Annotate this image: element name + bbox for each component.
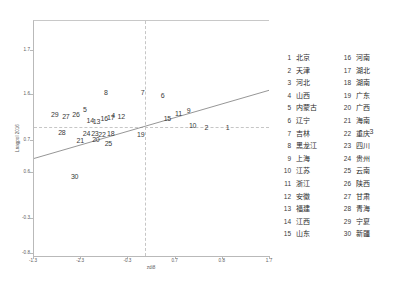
legend-entry: 26陕西 <box>338 178 390 191</box>
x-axis-line <box>33 256 269 257</box>
scatter-point-label: 7 <box>141 89 145 97</box>
legend-entry: 20广西 <box>338 102 390 115</box>
legend-entry: 4山西 <box>278 90 330 103</box>
x-tick-label: 0.7 <box>171 258 177 264</box>
province-legend: 1北京2天津3河北4山西5内蒙古6辽宁7吉林8黑龙江9上海10江苏11浙江12安… <box>278 52 390 241</box>
legend-entry-label: 内蒙古 <box>296 102 317 112</box>
legend-entry-label: 贵州 <box>356 153 370 163</box>
legend-entry-label: 山西 <box>296 90 310 100</box>
legend-entry: 23四川 <box>338 140 390 153</box>
legend-entry: 11浙江 <box>278 178 330 191</box>
legend-entry: 8黑龙江 <box>278 140 330 153</box>
legend-entry-label: 海南 <box>356 115 370 125</box>
x-tick-label: 1.7 <box>266 258 272 264</box>
legend-entry: 19广东 <box>338 90 390 103</box>
legend-entry: 16河南 <box>338 52 390 65</box>
legend-entry-label: 安徽 <box>296 191 310 201</box>
scatter-point-label: 17 <box>107 114 114 122</box>
scatter-point-label: 5 <box>83 106 87 114</box>
legend-entry-label: 广东 <box>356 90 370 100</box>
legend-column: 16河南17湖北18湖南19广东20广西21海南22重庆23四川24贵州25云南… <box>338 52 390 241</box>
legend-entry: 30新疆 <box>338 228 390 241</box>
legend-entry-label: 上海 <box>296 153 310 163</box>
scatter-point-label: 6 <box>161 92 165 100</box>
legend-entry: 12安徽 <box>278 191 330 204</box>
scatter-point-label: 25 <box>105 140 112 148</box>
legend-entry-number: 17 <box>338 67 351 74</box>
legend-entry: 21海南 <box>338 115 390 128</box>
x-axis-title: zdi8 <box>147 265 155 270</box>
scatter-point-label: 19 <box>137 131 144 139</box>
legend-entry-label: 辽宁 <box>296 115 310 125</box>
legend-entry-number: 18 <box>338 79 351 86</box>
legend-entry-number: 29 <box>338 218 351 225</box>
scatter-point-label: 14 <box>86 117 93 125</box>
legend-entry-number: 3 <box>278 79 291 86</box>
scatter-point-label: 23 <box>91 130 98 138</box>
legend-entry-label: 新疆 <box>356 228 370 238</box>
legend-entry: 10江苏 <box>278 165 330 178</box>
legend-entry-number: 8 <box>278 142 291 149</box>
legend-entry-label: 广西 <box>356 102 370 112</box>
scatter-point-label: 12 <box>118 113 125 121</box>
x-tick-label: -2.3 <box>76 258 84 264</box>
legend-entry-label: 黑龙江 <box>296 140 317 150</box>
legend-entry-number: 26 <box>338 180 351 187</box>
legend-entry-number: 7 <box>278 130 291 137</box>
scatter-point-label: 26 <box>72 111 79 119</box>
legend-entry-number: 21 <box>338 117 351 124</box>
fit-line-segment <box>34 90 269 158</box>
legend-entry-number: 20 <box>338 104 351 111</box>
y-tick-label: -0.3 <box>22 215 30 221</box>
scatter-point-label: 18 <box>107 130 114 138</box>
legend-entry: 1北京 <box>278 52 330 65</box>
legend-entry-number: 13 <box>278 205 291 212</box>
legend-entry-number: 14 <box>278 218 291 225</box>
scatter-point-label: 30 <box>71 173 78 181</box>
legend-entry-number: 12 <box>278 193 291 200</box>
scatter-plot-panel: 1234567891011121314151617181920212223242… <box>0 0 272 289</box>
scatter-point-label: 28 <box>58 129 65 137</box>
legend-entry-number: 2 <box>278 67 291 74</box>
legend-entry-label: 云南 <box>356 165 370 175</box>
legend-entry-number: 30 <box>338 230 351 237</box>
legend-entry-number: 4 <box>278 92 291 99</box>
legend-entry-number: 11 <box>278 180 291 187</box>
legend-entry: 27甘肃 <box>338 191 390 204</box>
legend-entry: 9上海 <box>278 153 330 166</box>
legend-entry-label: 陕西 <box>356 178 370 188</box>
y-tick-mark <box>30 253 33 254</box>
legend-entry-label: 吉林 <box>296 128 310 138</box>
scatter-point-label: 21 <box>77 137 84 145</box>
y-axis-title: Lnagpol 2016 <box>15 124 20 152</box>
legend-entry: 28青海 <box>338 203 390 216</box>
legend-entry-number: 16 <box>338 54 351 61</box>
legend-entry-label: 青海 <box>356 203 370 213</box>
scatter-point-label: 13 <box>93 118 100 126</box>
y-tick-label: -0.8 <box>22 250 30 256</box>
legend-entry: 3河北 <box>278 77 330 90</box>
scatter-point-label: 24 <box>83 130 90 138</box>
legend-entry-number: 1 <box>278 54 291 61</box>
legend-entry-number: 15 <box>278 230 291 237</box>
legend-entry-label: 甘肃 <box>356 191 370 201</box>
legend-entry-label: 浙江 <box>296 178 310 188</box>
y-tick-mark <box>30 94 33 95</box>
scatter-point-label: 10 <box>189 122 196 130</box>
legend-entry: 14江西 <box>278 216 330 229</box>
y-tick-label: 1.7 <box>24 47 30 53</box>
legend-entry-label: 河南 <box>356 52 370 62</box>
legend-entry-label: 江苏 <box>296 165 310 175</box>
scatter-point-label: 1 <box>226 124 230 132</box>
linear-fit-line <box>34 21 269 256</box>
legend-entry: 25云南 <box>338 165 390 178</box>
legend-entry-number: 27 <box>338 193 351 200</box>
scatter-point-label: 27 <box>62 113 69 121</box>
scatter-point-label: 2 <box>204 124 208 132</box>
legend-entry-label: 天津 <box>296 65 310 75</box>
legend-entry-number: 5 <box>278 104 291 111</box>
y-tick-label: 1.6 <box>24 91 30 97</box>
legend-entry: 22重庆 <box>338 128 390 141</box>
plot-data-area: 1234567891011121314151617181920212223242… <box>34 21 269 256</box>
legend-entry: 7吉林 <box>278 128 330 141</box>
